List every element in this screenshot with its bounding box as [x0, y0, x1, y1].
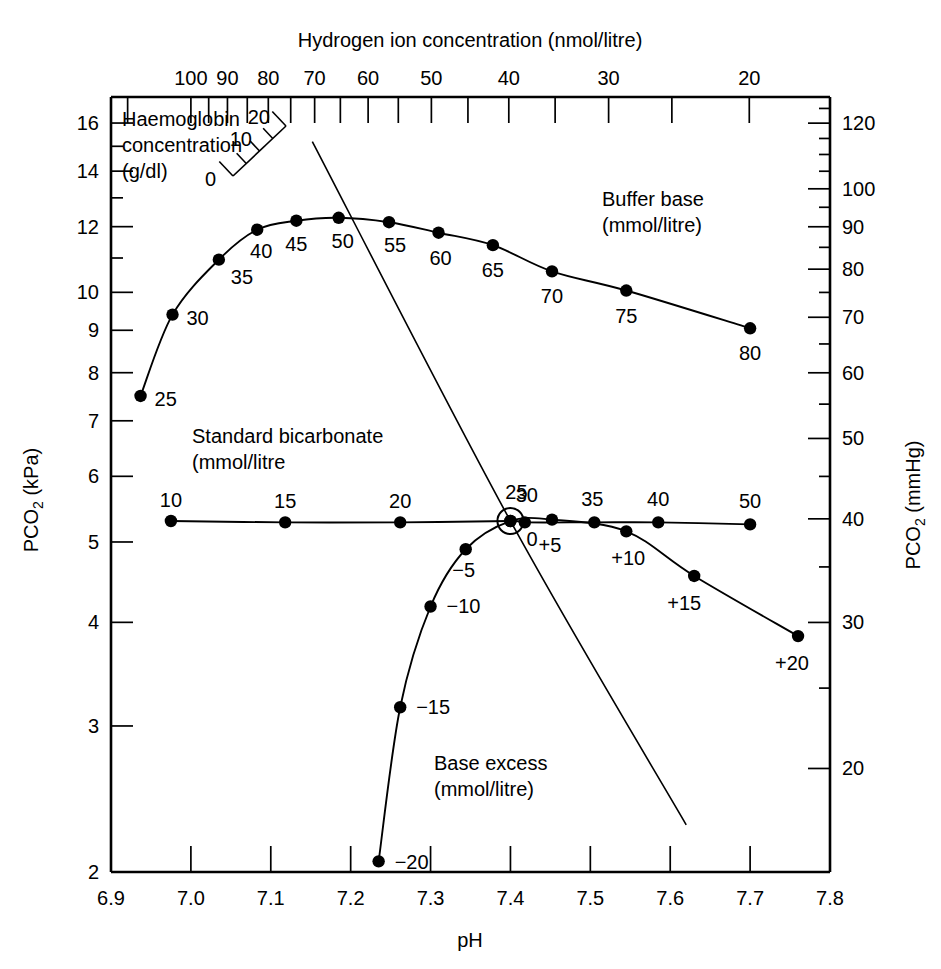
data-point-label: 0	[526, 528, 537, 550]
data-point	[546, 513, 558, 525]
right-title-sub: 2	[912, 518, 928, 526]
standard-bicarbonate-line2: (mmol/litre	[192, 451, 285, 473]
top-tick-label: 30	[597, 67, 619, 89]
bottom-tick-label: 7.4	[497, 887, 525, 909]
data-point-label: 30	[516, 484, 538, 506]
data-point	[487, 239, 499, 251]
right-tick-label: 100	[842, 178, 875, 200]
data-point	[432, 227, 444, 239]
data-point	[620, 284, 632, 296]
haemoglobin-scale-label: 20	[248, 106, 270, 128]
nomogram-figure: Hydrogen ion concentration (nmol/litre) …	[0, 0, 941, 969]
top-tick-label: 40	[498, 67, 520, 89]
data-point	[166, 308, 178, 320]
haemoglobin-scale-tick	[263, 128, 273, 138]
top-tick-label: 80	[257, 67, 279, 89]
left-tick-label: 12	[77, 216, 99, 238]
left-title-sub: 2	[30, 501, 46, 509]
right-tick-label: 80	[842, 258, 864, 280]
data-point	[332, 212, 344, 224]
left-title-p: P	[20, 539, 42, 552]
left-tick-label: 6	[88, 465, 99, 487]
data-point	[519, 516, 531, 528]
right-title-p: P	[902, 556, 924, 569]
data-point-label: 50	[739, 490, 761, 512]
data-point	[279, 516, 291, 528]
left-tick-label: 7	[88, 410, 99, 432]
right-tick-label: 90	[842, 216, 864, 238]
bottom-tick-label: 7.1	[257, 887, 285, 909]
bottom-tick-label: 7.6	[656, 887, 684, 909]
left-tick-label: 8	[88, 362, 99, 384]
series-curve	[312, 142, 686, 825]
data-point	[688, 570, 700, 582]
left-tick-label: 16	[77, 112, 99, 134]
data-point-label: 50	[332, 230, 354, 252]
left-axis-title: PCO2 (kPa)	[20, 448, 46, 552]
right-tick-label: 60	[842, 362, 864, 384]
data-point	[620, 525, 632, 537]
data-point	[588, 516, 600, 528]
left-axis-ticks: 1614121098765432	[77, 112, 133, 883]
data-point-label: 45	[285, 233, 307, 255]
data-point-label: +15	[667, 592, 701, 614]
left-tick-label: 5	[88, 531, 99, 553]
data-point-label: 40	[647, 488, 669, 510]
data-point-label: +20	[775, 652, 809, 674]
right-title-unit: (mmHg)	[902, 441, 924, 519]
haemoglobin-annotation: Haemoglobin concentration (g/dl)	[122, 108, 242, 182]
right-tick-label: 50	[842, 427, 864, 449]
top-tick-label: 50	[420, 67, 442, 89]
bottom-axis-title: pH	[457, 929, 483, 951]
top-tick-label: 60	[357, 67, 379, 89]
data-point-label: 65	[482, 259, 504, 281]
left-tick-label: 10	[77, 281, 99, 303]
data-point-label: 25	[155, 388, 177, 410]
right-tick-label: 30	[842, 611, 864, 633]
standard-bicarbonate-line1: Standard bicarbonate	[192, 425, 383, 447]
haemoglobin-line2: concentration	[122, 134, 242, 156]
bottom-tick-label: 6.9	[97, 887, 125, 909]
point-labels-layer: 2530354045505560657075801015202530354050…	[155, 230, 809, 874]
data-point-label: 75	[615, 305, 637, 327]
data-point-label: −15	[416, 696, 450, 718]
data-point-label: 10	[160, 489, 182, 511]
base-excess-annotation: Base excess (mmol/litre)	[434, 752, 547, 800]
data-point-label: 15	[274, 490, 296, 512]
data-point-label: +10	[611, 547, 645, 569]
data-point-label: 60	[429, 247, 451, 269]
data-point-label: 70	[541, 285, 563, 307]
right-tick-label: 20	[842, 757, 864, 779]
data-point-label: 55	[384, 234, 406, 256]
series-curve	[141, 218, 751, 396]
data-point-label: −20	[395, 851, 429, 873]
buffer-base-line2: (mmol/litre)	[602, 214, 702, 236]
data-point	[460, 543, 472, 555]
series-curve	[379, 518, 798, 862]
data-point-label: 40	[250, 240, 272, 262]
buffer-base-line1: Buffer base	[602, 188, 704, 210]
right-axis-title: PCO2 (mmHg)	[902, 441, 928, 570]
data-point	[504, 515, 516, 527]
data-point-label: 35	[231, 266, 253, 288]
data-point-label: −5	[452, 559, 475, 581]
data-point	[394, 516, 406, 528]
left-title-unit: (kPa)	[20, 448, 42, 501]
left-tick-label: 2	[88, 861, 99, 883]
top-axis-title: Hydrogen ion concentration (nmol/litre)	[298, 29, 643, 51]
data-point-label: 35	[581, 488, 603, 510]
left-tick-label: 9	[88, 319, 99, 341]
haemoglobin-scale-tick	[219, 161, 233, 176]
data-point-label: 20	[389, 490, 411, 512]
right-axis-ticks: 1201009080706050403020	[808, 108, 875, 779]
haemoglobin-line1: Haemoglobin	[122, 108, 240, 130]
data-point	[213, 253, 225, 265]
data-point-label: −10	[447, 595, 481, 617]
data-point	[546, 265, 558, 277]
base-excess-line2: (mmol/litre)	[434, 778, 534, 800]
left-tick-label: 4	[88, 611, 99, 633]
data-point	[424, 600, 436, 612]
data-point	[744, 518, 756, 530]
left-tick-label: 3	[88, 715, 99, 737]
top-tick-label: 70	[304, 67, 326, 89]
